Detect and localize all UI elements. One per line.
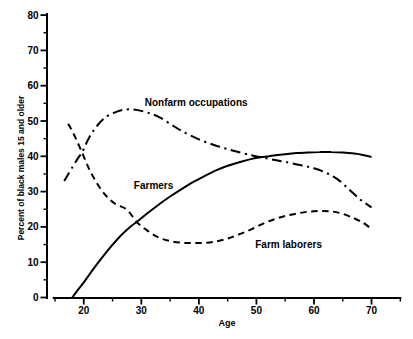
x-tick-label: 40: [193, 305, 205, 316]
series-line-farm-laborers: [68, 124, 371, 243]
series-label-farm-laborers: Farm laborers: [255, 239, 322, 250]
y-tick-label: 40: [27, 151, 39, 162]
series-label-nonfarm-occupations: Nonfarm occupations: [145, 97, 248, 108]
x-tick-label: 60: [308, 305, 320, 316]
series-line-nonfarm-occupations: [64, 109, 371, 207]
x-axis-title: Age: [218, 318, 235, 328]
occupations-by-age-chart: 01020304050607080203040506070AgePercent …: [0, 0, 413, 339]
y-tick-label: 20: [27, 221, 39, 232]
x-tick-label: 50: [251, 305, 263, 316]
x-tick-label: 30: [136, 305, 148, 316]
y-tick-label: 70: [27, 45, 39, 56]
y-tick-label: 0: [33, 292, 39, 303]
series-label-farmers: Farmers: [134, 180, 174, 191]
y-axis-title: Percent of black males 15 and older: [16, 95, 26, 240]
y-tick-label: 60: [27, 80, 39, 91]
x-tick-label: 20: [78, 305, 90, 316]
x-tick-label: 70: [366, 305, 378, 316]
y-tick-label: 10: [27, 257, 39, 268]
y-tick-label: 50: [27, 116, 39, 127]
series-line-farmers: [72, 152, 371, 297]
figure-page: 01020304050607080203040506070AgePercent …: [0, 0, 413, 339]
y-tick-label: 30: [27, 186, 39, 197]
y-tick-label: 80: [27, 10, 39, 21]
